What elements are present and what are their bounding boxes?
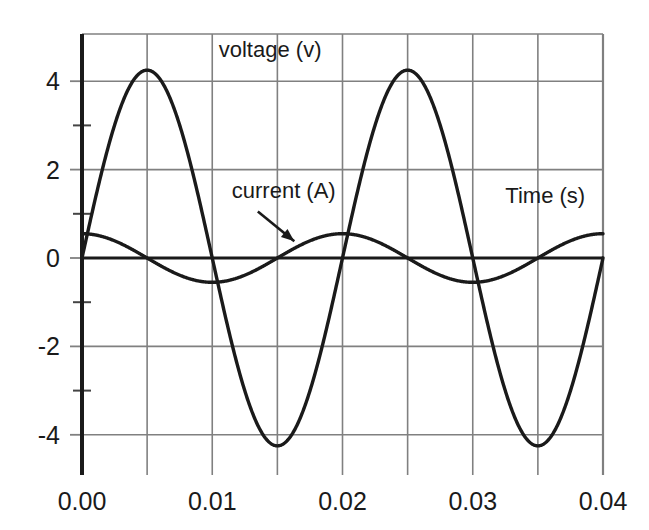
- x-tick-label: 0.01: [188, 487, 237, 515]
- x-tick-label: 0.04: [579, 487, 628, 515]
- x-tick-label: 0.00: [58, 487, 107, 515]
- waveform-chart: 0.000.010.020.030.04 420-2-4 voltage (v)…: [0, 0, 649, 530]
- current-series-label: current (A): [232, 178, 336, 203]
- voltage-series-label: voltage (v): [219, 37, 322, 62]
- x-tick-label: 0.03: [448, 487, 497, 515]
- y-tick-label: 4: [46, 67, 60, 95]
- x-axis-title: Time (s): [505, 183, 585, 208]
- y-tick-label: -4: [38, 421, 60, 449]
- chart-background: [0, 0, 649, 530]
- chart-canvas: 0.000.010.020.030.04 420-2-4 voltage (v)…: [0, 0, 649, 530]
- x-tick-label: 0.02: [318, 487, 367, 515]
- y-tick-label: -2: [38, 332, 60, 360]
- y-tick-label: 2: [46, 156, 60, 184]
- y-tick-label: 0: [46, 244, 60, 272]
